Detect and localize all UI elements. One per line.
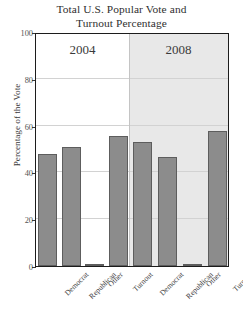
bar-2004-other — [85, 264, 104, 266]
bar-2008-republican — [158, 157, 177, 266]
chart-figure: Total U.S. Popular Vote and Turnout Perc… — [0, 0, 243, 325]
x-tick-label-2004-turnout: Turnout — [131, 270, 154, 293]
bar-2008-turnout — [208, 131, 227, 266]
y-tick-label-0: 0 — [7, 263, 33, 272]
y-tick-label-20: 20 — [7, 216, 33, 225]
x-tick-label-2004-democrat: Democrat — [63, 270, 91, 298]
panel-label-2004: 2004 — [36, 42, 129, 58]
x-tick-label-2008-turnout: Turnout — [231, 270, 243, 293]
y-tick-label-100: 100 — [7, 29, 33, 38]
bar-2004-republican — [62, 147, 81, 266]
bar-2008-democrat — [133, 142, 152, 266]
gridline-80 — [36, 78, 228, 79]
bar-2008-other — [183, 264, 202, 266]
chart-title: Total U.S. Popular Vote and Turnout Perc… — [14, 3, 229, 30]
bar-2004-democrat — [38, 154, 57, 266]
bar-2004-turnout — [109, 136, 128, 266]
x-tick-label-2008-democrat: Democrat — [157, 270, 185, 298]
panel-label-2008: 2008 — [129, 42, 228, 58]
plot-area: 2004 2008 — [35, 33, 229, 267]
chart-title-line-2: Turnout Percentage — [14, 17, 229, 31]
chart-title-line-1: Total U.S. Popular Vote and — [14, 3, 229, 17]
gridline-60 — [36, 125, 228, 126]
panel-divider — [129, 34, 130, 266]
y-axis-title: Percentage of the Vote — [12, 60, 22, 190]
x-axis-labels: DemocratRepublicanOtherTurnoutDemocratRe… — [35, 267, 229, 325]
